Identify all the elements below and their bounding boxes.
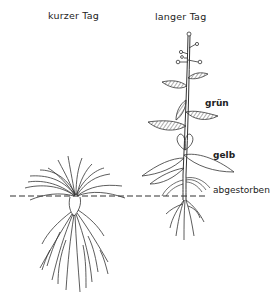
long-day-roots <box>166 200 204 240</box>
label-dead: abgestorben <box>213 185 270 195</box>
long-day-stem <box>183 35 190 200</box>
photoperiod-diagram: kurzer Tag langer Tag <box>0 0 275 299</box>
short-day-rosette <box>25 156 125 200</box>
label-yellow: gelb <box>213 150 235 160</box>
label-green: grün <box>205 98 229 108</box>
short-day-roots <box>40 197 108 292</box>
